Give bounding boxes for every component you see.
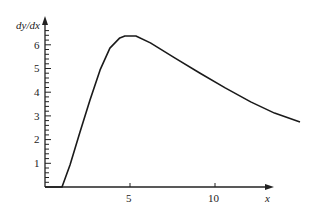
y-tick-label-2: 2 [34, 133, 40, 145]
x-tick-label-10: 10 [208, 192, 220, 204]
y-tick-label-1: 1 [34, 157, 40, 169]
y-tick-label-4: 4 [34, 86, 40, 98]
chart: dy/dx x 5 10 1 2 3 4 5 6 [0, 0, 324, 212]
y-axis-minor-ticks [45, 31, 51, 183]
x-tick-label-5: 5 [126, 192, 132, 204]
y-tick-label-3: 3 [34, 110, 40, 122]
y-axis-arrow-icon [42, 16, 48, 25]
y-axis-label: dy/dx [16, 19, 40, 31]
x-axis-arrow-icon [265, 184, 274, 190]
y-tick-label-6: 6 [34, 39, 40, 51]
y-tick-label-5: 5 [34, 62, 40, 74]
dydx-curve [45, 36, 300, 187]
x-axis-label: x [264, 192, 270, 204]
